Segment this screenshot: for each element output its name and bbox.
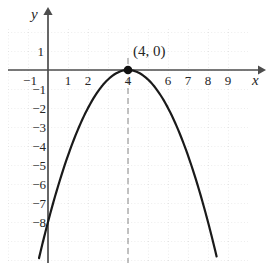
x-tick-label-1: 1 — [65, 74, 72, 87]
x-axis-label: x — [252, 73, 259, 88]
x-tick-label-8: 8 — [205, 74, 212, 87]
graph-figure: y x (4, 0) −1 1 2 4 6 7 8 9 1 −1 −2 −3 −… — [0, 0, 269, 276]
y-tick-label-neg6: −6 — [32, 178, 46, 191]
y-tick-label-neg3: −3 — [32, 121, 46, 134]
x-tick-label-4: 4 — [125, 74, 132, 87]
y-tick-label-neg2: −2 — [32, 102, 46, 115]
y-axis-label: y — [31, 7, 38, 22]
x-axis-arrow — [258, 65, 266, 74]
y-tick-label-neg1: −1 — [32, 83, 46, 96]
y-tick-label-neg4: −4 — [32, 140, 46, 153]
x-tick-label-2: 2 — [85, 74, 92, 87]
x-tick-label-7: 7 — [185, 74, 192, 87]
y-tick-label-neg8: −8 — [32, 216, 46, 229]
y-tick-label-neg7: −7 — [32, 197, 46, 210]
y-tick-label-1: 1 — [38, 45, 45, 58]
vertex-point-label: (4, 0) — [133, 44, 166, 59]
x-tick-label-6: 6 — [165, 74, 172, 87]
x-tick-label-9: 9 — [225, 74, 232, 87]
y-tick-label-neg5: −5 — [32, 159, 46, 172]
y-axis-arrow — [43, 7, 52, 15]
